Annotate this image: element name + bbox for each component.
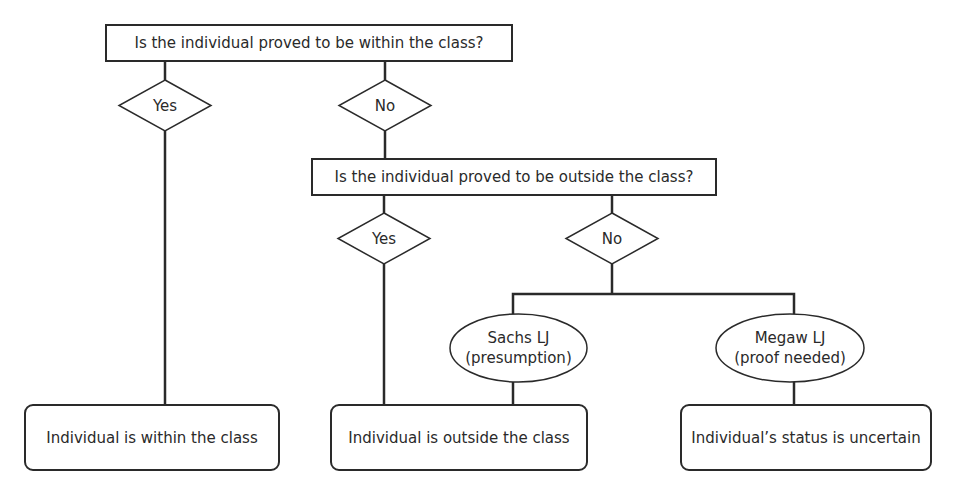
question-within-class: Is the individual proved to be within th…	[105, 24, 513, 62]
outcome-within-class-text: Individual is within the class	[46, 428, 257, 448]
label-q1-yes: Yes	[125, 95, 205, 117]
outcome-outside-class-text: Individual is outside the class	[348, 428, 569, 448]
opinion-sachs-position: (presumption)	[465, 348, 571, 368]
opinion-sachs: Sachs LJ (presumption)	[450, 314, 587, 382]
label-q2-yes: Yes	[344, 228, 424, 250]
label-q1-no: No	[345, 95, 425, 117]
label-q2-no: No	[572, 228, 652, 250]
connector-branch	[513, 294, 794, 314]
question-outside-class-text: Is the individual proved to be outside t…	[335, 167, 694, 187]
outcome-outside-class: Individual is outside the class	[330, 404, 588, 471]
outcome-status-uncertain-text: Individual’s status is uncertain	[691, 428, 920, 448]
opinion-megaw: Megaw LJ (proof needed)	[716, 314, 864, 382]
opinion-megaw-position: (proof needed)	[734, 348, 846, 368]
question-within-class-text: Is the individual proved to be within th…	[134, 33, 483, 53]
opinion-megaw-judge: Megaw LJ	[755, 328, 826, 348]
question-outside-class: Is the individual proved to be outside t…	[311, 158, 717, 196]
outcome-within-class: Individual is within the class	[24, 404, 280, 471]
opinion-sachs-judge: Sachs LJ	[488, 328, 550, 348]
outcome-status-uncertain: Individual’s status is uncertain	[680, 404, 932, 471]
